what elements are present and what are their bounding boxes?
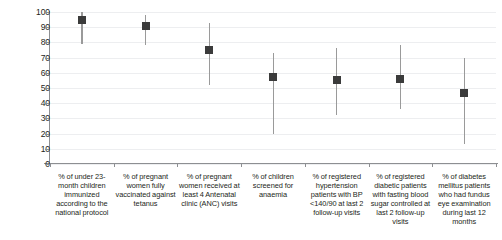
x-axis-tick-mark [241,163,242,167]
gridline [50,27,496,28]
x-axis-tick-mark [305,163,306,167]
x-axis-tick-mark [496,163,497,167]
x-axis-tick-mark [50,163,51,167]
gridline [50,164,496,165]
range-bar [145,15,146,45]
x-axis-tick-mark [432,163,433,167]
data-point-marker [333,76,341,84]
x-axis-category-label: % of pregnant women received at least 4 … [177,172,241,208]
x-axis-category-label: % of diabetes mellitus patients who had … [432,172,496,227]
y-axis-tick-mark [45,103,49,104]
y-axis-tick-mark [45,88,49,89]
range-bar [273,53,274,134]
data-point-marker [205,46,213,54]
chart-container: 0102030405060708090100 % of under 23-mon… [0,0,502,240]
y-axis-tick-mark [45,27,49,28]
x-axis-line [44,163,498,164]
x-axis-category-label: % of pregnant women fully vaccinated aga… [114,172,178,208]
data-point-marker [269,73,277,81]
x-axis-category-label: % of children screened for anaemia [241,172,305,199]
y-axis-tick-mark [45,149,49,150]
y-axis-tick-mark [45,118,49,119]
y-axis-tick-mark [45,134,49,135]
gridline [50,42,496,43]
gridline [50,12,496,13]
y-axis-tick-mark [45,42,49,43]
gridline [50,134,496,135]
x-axis-tick-mark [177,163,178,167]
data-point-marker [142,22,150,30]
y-axis-tick-mark [45,12,49,13]
x-axis-category-label: % of registered diabetic patients with f… [369,172,433,227]
data-point-marker [460,89,468,97]
x-axis-tick-mark [369,163,370,167]
x-axis-category-label: % of registered hypertension patients wi… [305,172,369,217]
data-point-marker [78,16,86,24]
data-point-marker [396,75,404,83]
y-axis-tick-mark [45,73,49,74]
y-axis-tick-mark [45,58,49,59]
gridline [50,149,496,150]
x-axis-category-labels: % of under 23-month children immunized a… [44,172,502,240]
plot-area [50,12,496,164]
x-axis-tick-mark [114,163,115,167]
x-axis-category-label: % of under 23-month children immunized a… [50,172,114,217]
range-bar [464,58,465,145]
y-axis-tick-mark [45,164,49,165]
